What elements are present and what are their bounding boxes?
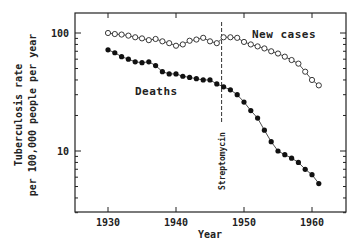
x-axis-title: Year	[198, 229, 222, 240]
x-tick-label: 1960	[300, 217, 324, 228]
streptomycin-label: Streptomycin	[217, 132, 227, 190]
x-tick-label: 1930	[96, 217, 120, 228]
data-series	[105, 30, 321, 186]
x-tick-label: 1950	[232, 217, 256, 228]
tuberculosis-chart: 10100 1930194019501960 Streptomycin New …	[0, 0, 359, 251]
x-tick-label: 1940	[164, 217, 188, 228]
y-tick-label: 100	[51, 28, 69, 39]
new-cases-label: New cases	[252, 28, 316, 41]
x-axis-ticks: 1930194019501960	[96, 13, 324, 228]
y-axis-title-line2: per 100,000 people per year	[27, 34, 38, 197]
streptomycin-marker: Streptomycin	[217, 22, 227, 190]
y-axis-ticks: 10100	[51, 28, 346, 213]
deaths-label: Deaths	[135, 85, 178, 98]
y-tick-label: 10	[57, 146, 69, 157]
y-axis-title-line1: Tuberculosis rate	[13, 64, 24, 166]
